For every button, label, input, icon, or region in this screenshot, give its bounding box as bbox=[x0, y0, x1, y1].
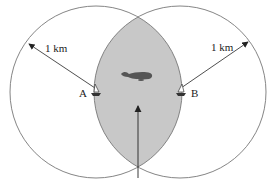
two-circle-diagram: 1 km 1 km A B bbox=[0, 0, 272, 181]
distance-label-b: 1 km bbox=[211, 41, 234, 53]
station-label-b: B bbox=[191, 87, 198, 99]
station-label-a: A bbox=[79, 87, 87, 99]
distance-label-a: 1 km bbox=[45, 42, 68, 54]
